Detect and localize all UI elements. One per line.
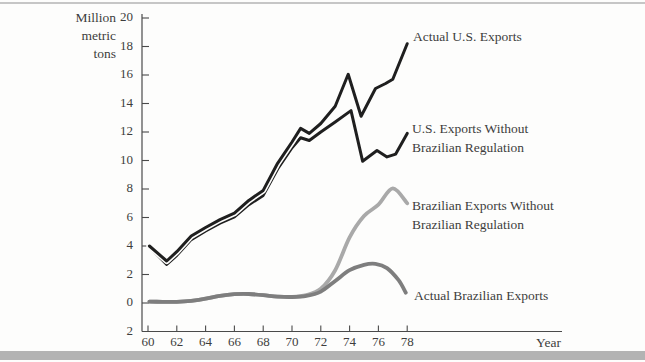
figure: Million metric tons 201816141210864202 6… [0,0,645,362]
x-tick-label: 64 [193,334,219,350]
x-tick-label: 68 [250,334,276,350]
x-tick-label: 60 [135,334,161,350]
x-tick-label: 76 [365,334,391,350]
y-tick-label: 6 [88,209,133,225]
x-tick-label: 78 [394,334,420,350]
y-tick-label: 16 [88,66,133,82]
y-tick-label: 18 [88,38,133,54]
y-tick-label: 14 [88,95,133,111]
x-tick-label: 74 [337,334,363,350]
x-tick-label: 62 [164,334,190,350]
series-label-1: U.S. Exports Without Brazilian Regulatio… [412,119,528,157]
series-path-0 [149,44,407,261]
x-tick-label: 70 [279,334,305,350]
x-axis-title: Year [536,335,561,351]
y-axis-corner-label: 2 [88,323,133,339]
y-tick-label: 10 [88,152,133,168]
series-label-2: Brazilian Exports Without Brazilian Regu… [412,196,554,234]
series-path-0-casing [149,44,407,261]
series-path-3 [149,264,405,302]
series-label-0: Actual U.S. Exports [413,27,522,46]
y-tick-label: 12 [88,123,133,139]
series-label-3: Actual Brazilian Exports [414,286,548,305]
y-tick-label: 20 [88,9,133,25]
bottom-bar [0,351,645,360]
x-tick-label: 72 [308,334,334,350]
y-tick-label: 4 [88,237,133,253]
x-tick-label: 66 [221,334,247,350]
y-tick-label: 2 [88,266,133,282]
y-tick-label: 8 [88,180,133,196]
y-tick-label: 0 [88,294,133,310]
